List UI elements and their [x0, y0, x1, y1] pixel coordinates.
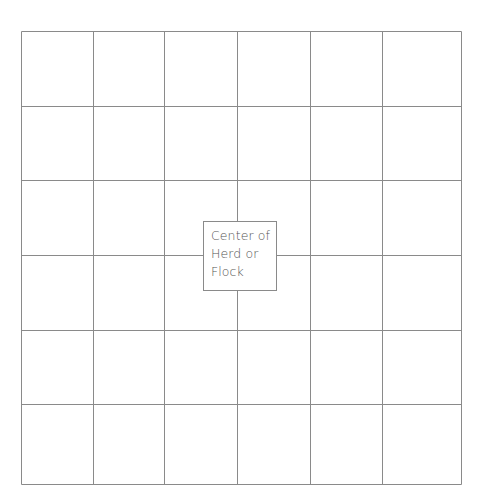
label-line-2: Herd or	[211, 245, 276, 263]
label-line-3: Flock	[211, 263, 276, 281]
center-of-herd-label: Center of Herd or Flock	[203, 221, 277, 291]
label-line-1: Center of	[211, 227, 276, 245]
